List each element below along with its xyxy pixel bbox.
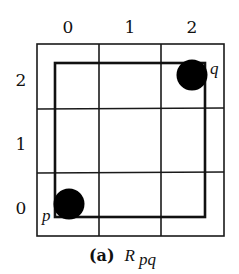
caption-symbol: R	[124, 246, 136, 265]
caption: (a) R pq	[89, 246, 156, 269]
grid-line-h1	[37, 108, 224, 109]
column-label-1: 1	[125, 17, 136, 37]
column-label-0: 0	[63, 17, 74, 37]
grid-line-h2	[37, 172, 224, 173]
row-label-1: 1	[16, 134, 27, 154]
column-label-2: 2	[187, 17, 198, 37]
row-label-2: 2	[16, 70, 27, 90]
rpq-diagram: 0 1 2 2 1 0 q p (a) R pq	[0, 0, 239, 274]
row-label-0: 0	[16, 198, 27, 218]
point-q-dot	[177, 60, 208, 91]
point-p-label: p	[41, 206, 51, 225]
caption-tag: (a)	[89, 246, 115, 265]
point-p-dot	[54, 189, 85, 220]
caption-subscript: pq	[138, 250, 157, 269]
point-q-label: q	[210, 59, 219, 78]
